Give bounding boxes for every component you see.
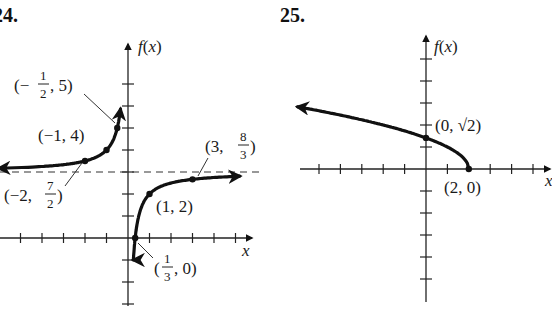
label-neg1-4: (−1, 4) [38, 126, 84, 145]
data-point [132, 235, 138, 241]
data-point [146, 191, 152, 197]
graph-24-xlabel: x [241, 241, 250, 260]
svg-text:2: 2 [47, 196, 54, 211]
svg-text:, 5): , 5) [50, 76, 73, 95]
graph-25-axes [300, 36, 550, 302]
svg-text:, 0): , 0) [174, 259, 197, 278]
label-0-sqrt2: (0, √2) [435, 116, 481, 135]
svg-text:(−2,: (−2, [4, 186, 32, 205]
label-neg-half-5: (− 1 2 , 5) [14, 68, 115, 123]
svg-text:1: 1 [164, 251, 171, 266]
svg-text:(3,: (3, [205, 137, 223, 156]
data-point [114, 125, 120, 131]
svg-text:3: 3 [240, 147, 247, 162]
svg-text:(: ( [154, 259, 160, 278]
graph-24-axes [0, 44, 252, 306]
svg-text:7: 7 [47, 178, 54, 193]
label-2-0: (2, 0) [444, 178, 481, 197]
svg-text:1: 1 [40, 68, 47, 83]
svg-text:): ) [250, 137, 256, 156]
svg-text:3: 3 [164, 269, 171, 284]
data-point [466, 166, 472, 172]
leader-line [198, 158, 208, 176]
data-point [103, 147, 109, 153]
svg-text:(−: (− [14, 76, 29, 95]
graph-25: 25. f(x) x (0, √2) (2, 0) [280, 4, 552, 302]
curve-right-branch [133, 176, 239, 260]
leader-line [84, 94, 115, 123]
label-3-8thirds: (3, 8 3 ) [198, 129, 256, 176]
data-point [423, 135, 429, 141]
svg-text:8: 8 [240, 129, 247, 144]
label-neg2-7half: (−2, 7 2 ) [4, 163, 82, 211]
leader-line [138, 243, 153, 258]
graph-24: 24. f(x) x (− 1 2 , 5) (−1, 4) (−2, 7 2 … [0, 4, 260, 306]
graph-25-xlabel: x [544, 171, 552, 190]
graph-25-ylabel: f(x) [434, 37, 458, 56]
leader-line [65, 163, 82, 186]
label-1-2: (1, 2) [156, 197, 193, 216]
graph-24-ticks [0, 84, 236, 304]
figure: 24. f(x) x (− 1 2 , 5) (−1, 4) (−2, 7 2 … [0, 0, 552, 322]
graph-24-ylabel: f(x) [138, 37, 162, 56]
problem-number-24: 24. [0, 4, 18, 26]
problem-number-25: 25. [280, 4, 305, 26]
svg-text:2: 2 [40, 86, 47, 101]
data-point [82, 158, 88, 164]
label-third-0: ( 1 3 , 0) [138, 243, 197, 284]
svg-text:): ) [57, 186, 63, 205]
data-point [189, 176, 195, 182]
